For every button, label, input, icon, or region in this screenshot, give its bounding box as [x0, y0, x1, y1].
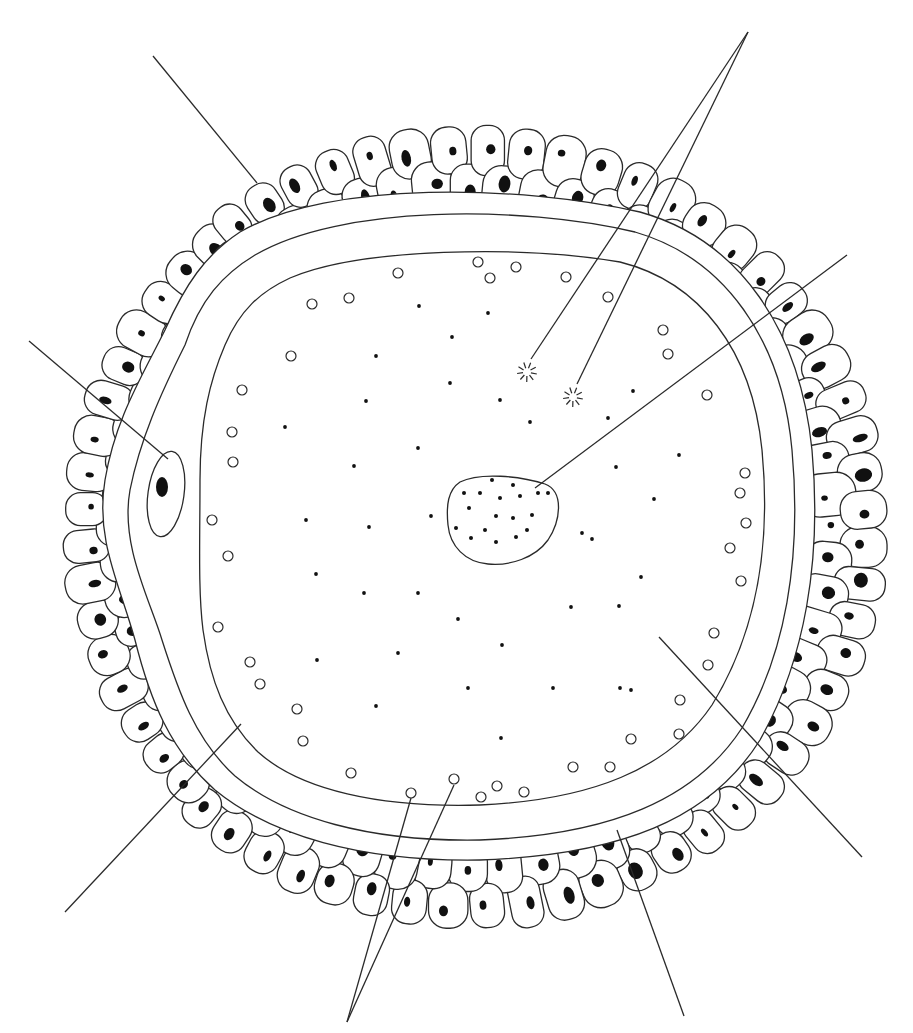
diagram-canvas — [0, 0, 913, 1033]
oocyte-diagram — [0, 0, 913, 1033]
follicle-cell — [66, 493, 108, 526]
leader-line-corona-radiata — [153, 56, 257, 183]
polar-body-nucleus — [156, 477, 168, 497]
follicle-cell — [839, 489, 889, 531]
follicle-cell — [429, 883, 468, 928]
